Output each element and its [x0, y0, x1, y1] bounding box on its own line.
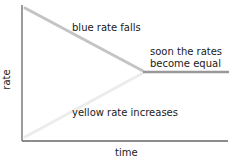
yellow-rate-annotation: yellow rate increases	[72, 107, 178, 119]
blue-rate-annotation: blue rate falls	[72, 22, 141, 34]
y-axis-label: rate	[1, 69, 12, 89]
equal-annotation-line2: become equal	[150, 58, 221, 70]
blue-rate-line	[25, 8, 143, 71]
x-axis-label: time	[115, 147, 138, 159]
yellow-rate-line	[25, 73, 143, 137]
equal-annotation-line1: soon the rates	[150, 46, 222, 58]
